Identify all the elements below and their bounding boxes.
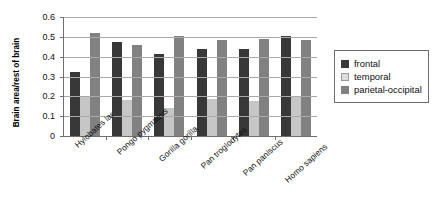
gridline [64,37,317,38]
legend-label: parietal-occipital [354,84,422,95]
y-tick-label: 0.4 [27,52,55,62]
y-tick-label: 0.1 [27,111,55,121]
x-tick-label: Homo sapiens [283,141,329,184]
y-tick-mark [60,37,64,38]
y-tick-mark [60,57,64,58]
bar [122,100,132,136]
legend-item: parietal-occipital [341,84,422,95]
legend-label: temporal [354,71,390,82]
legend-swatch-icon [341,86,349,94]
bar [70,72,80,136]
y-tick-mark [60,77,64,78]
y-tick-mark [60,17,64,18]
bar [217,40,227,136]
gridline [64,77,317,78]
bar [249,101,259,136]
bar [132,45,142,136]
chart-legend: frontaltemporalparietal-occipital [334,50,429,103]
y-tick-label: 0.5 [27,32,55,42]
y-tick-label: 0.2 [27,91,55,101]
gridline [64,57,317,58]
x-axis-tick-labels: Hylobates larPongo pygmaeusGorilla goril… [63,136,316,224]
legend-item: frontal [341,58,422,69]
bar-chart: Brain area/rest of brain 0.60.50.40.30.2… [0,0,447,224]
y-tick-label: 0 [27,131,55,141]
legend-label: frontal [354,58,380,69]
bar [281,36,291,136]
y-tick-label: 0.6 [27,12,55,22]
bar [301,40,311,136]
legend-swatch-icon [341,73,349,81]
bar [239,49,249,136]
y-tick-label: 0.3 [27,72,55,82]
gridline [64,17,317,18]
legend-item: temporal [341,71,422,82]
bar [207,99,217,136]
bar [174,36,184,136]
x-tick-label: Pan paniscus [241,137,285,178]
y-tick-mark [60,96,64,97]
gridline [64,96,317,97]
y-axis-tick-labels: 0.60.50.40.30.20.10 [27,0,55,224]
bar [259,39,269,136]
legend-swatch-icon [341,60,349,68]
y-tick-mark [60,116,64,117]
y-axis-title: Brain area/rest of brain [12,13,21,153]
bar [197,49,207,136]
